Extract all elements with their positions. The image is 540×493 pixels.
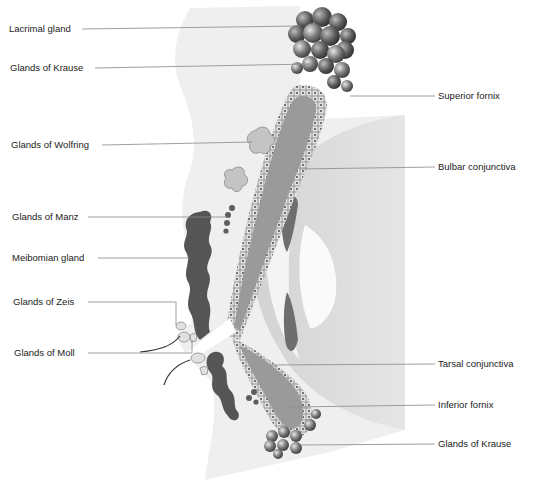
label-glands-of-manz: Glands of Manz xyxy=(12,211,79,223)
eyelash-lower xyxy=(164,360,190,385)
label-inferior-fornix: Inferior fornix xyxy=(438,399,493,411)
label-lacrimal-gland: Lacrimal gland xyxy=(9,23,71,35)
meibomian-gland-upper xyxy=(184,211,212,340)
label-glands-of-zeis: Glands of Zeis xyxy=(13,296,74,308)
label-bulbar-conjunctiva: Bulbar conjunctiva xyxy=(438,161,516,173)
label-glands-of-moll: Glands of Moll xyxy=(14,347,75,359)
label-tarsal-conjunctiva: Tarsal conjunctiva xyxy=(438,358,514,370)
label-glands-of-wolfring: Glands of Wolfring xyxy=(11,139,89,151)
label-meibomian-gland: Meibomian gland xyxy=(12,252,84,264)
label-superior-fornix: Superior fornix xyxy=(438,90,500,102)
eyelash-upper xyxy=(140,336,180,352)
label-glands-of-krause-upper: Glands of Krause xyxy=(10,62,83,74)
label-glands-of-krause-lower: Glands of Krause xyxy=(438,438,511,450)
